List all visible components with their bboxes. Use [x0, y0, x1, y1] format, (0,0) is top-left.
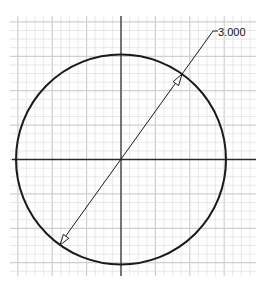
dimension-value[interactable]: 3.000: [218, 26, 246, 38]
canvas-background: [0, 0, 266, 288]
sketch-canvas[interactable]: 3.000: [0, 0, 266, 288]
